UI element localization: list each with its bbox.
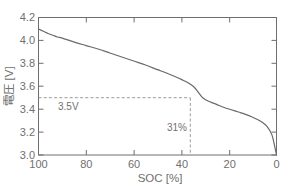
y-tick-label: 3.6 <box>20 80 35 92</box>
x-tick-label: 20 <box>224 158 236 170</box>
y-tick-label: 4.2 <box>20 11 35 23</box>
voltage-threshold-label: 3.5V <box>58 101 79 112</box>
x-tick-label: 80 <box>80 158 92 170</box>
x-tick-label: 60 <box>128 158 140 170</box>
x-axis-title: SOC [%] <box>138 172 183 184</box>
y-tick-label: 3.8 <box>20 57 35 69</box>
y-axis-title: 電圧 [V] <box>3 66 15 105</box>
y-tick-label: 4.0 <box>20 34 35 46</box>
x-tick-label: 0 <box>273 158 279 170</box>
y-tick-label: 3.4 <box>20 103 35 115</box>
y-tick-label: 3.2 <box>20 126 35 138</box>
chart-figure: 4.2 4.0 3.8 3.6 3.4 3.2 3.0 100 80 60 40… <box>0 0 290 186</box>
chart-svg: 4.2 4.0 3.8 3.6 3.4 3.2 3.0 100 80 60 40… <box>0 0 290 186</box>
x-tick-label: 100 <box>29 158 47 170</box>
soc-threshold-label: 31% <box>167 122 187 133</box>
x-tick-label: 40 <box>176 158 188 170</box>
